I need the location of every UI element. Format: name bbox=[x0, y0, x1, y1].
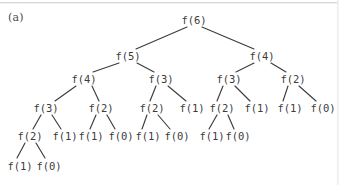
tree-node: f(1) bbox=[53, 130, 78, 142]
tree-node: f(1) bbox=[245, 102, 270, 114]
tree-edge-layer bbox=[0, 0, 339, 185]
tree-edge bbox=[90, 115, 96, 129]
fibonacci-recursion-tree-figure: (a) f(6)f(5)f(4)f(4)f(3)f(3)f(2)f(3)f(2)… bbox=[0, 0, 339, 185]
tree-node: f(0) bbox=[165, 130, 190, 142]
tree-node: f(6) bbox=[182, 14, 207, 26]
tree-edge bbox=[228, 115, 234, 129]
tree-node: f(1) bbox=[278, 102, 303, 114]
tree-node: f(1) bbox=[180, 102, 205, 114]
tree-edge bbox=[17, 143, 25, 158]
tree-edge bbox=[92, 86, 99, 101]
tree-node: f(3) bbox=[217, 73, 242, 85]
tree-edge bbox=[142, 115, 147, 129]
tree-edge bbox=[150, 86, 156, 101]
tree-edge bbox=[283, 86, 288, 101]
tree-edge bbox=[137, 63, 154, 72]
tree-node: f(2) bbox=[281, 73, 306, 85]
tree-node: f(2) bbox=[140, 102, 165, 114]
tree-node: f(2) bbox=[18, 130, 43, 142]
tree-node: f(1) bbox=[79, 130, 104, 142]
tree-node: f(1) bbox=[136, 130, 161, 142]
panel-label: (a) bbox=[8, 11, 24, 24]
tree-node: f(4) bbox=[250, 50, 275, 62]
tree-node: f(1) bbox=[8, 160, 33, 172]
tree-edge bbox=[168, 86, 186, 101]
tree-node: f(0) bbox=[37, 160, 62, 172]
tree-node: f(2) bbox=[210, 102, 235, 114]
scan-artifact-top-line bbox=[0, 2, 339, 4]
tree-edge bbox=[158, 115, 170, 129]
tree-node: f(0) bbox=[226, 130, 251, 142]
tree-node: f(3) bbox=[149, 73, 174, 85]
tree-node: f(2) bbox=[89, 102, 114, 114]
tree-edge bbox=[217, 86, 223, 101]
tree-node: f(4) bbox=[72, 73, 97, 85]
tree-edge bbox=[202, 27, 254, 49]
tree-edge bbox=[52, 115, 61, 129]
tree-edge bbox=[271, 63, 286, 72]
tree-node: f(0) bbox=[311, 102, 336, 114]
tree-node: f(5) bbox=[116, 50, 141, 62]
tree-node: f(0) bbox=[109, 130, 134, 142]
tree-node: f(1) bbox=[200, 130, 225, 142]
tree-edge bbox=[299, 86, 316, 101]
tree-edge bbox=[33, 115, 41, 129]
tree-edge bbox=[36, 143, 45, 158]
tree-edge bbox=[107, 115, 115, 129]
tree-edge bbox=[209, 115, 217, 129]
tree-edge bbox=[55, 86, 76, 101]
tree-edge bbox=[236, 63, 254, 72]
tree-node: f(3) bbox=[34, 102, 59, 114]
tree-edge bbox=[93, 63, 119, 72]
tree-edge bbox=[235, 86, 250, 101]
tree-edge bbox=[136, 27, 187, 49]
